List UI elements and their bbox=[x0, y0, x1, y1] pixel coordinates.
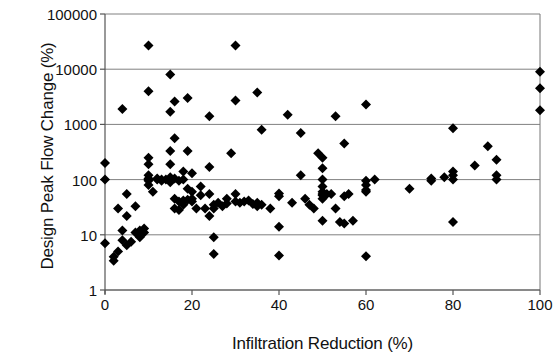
data-point bbox=[165, 107, 175, 117]
data-point bbox=[170, 133, 180, 143]
data-point bbox=[339, 139, 349, 149]
data-point bbox=[204, 162, 214, 172]
data-point bbox=[318, 216, 328, 226]
data-point bbox=[165, 70, 175, 80]
data-point bbox=[100, 238, 110, 248]
data-point bbox=[370, 175, 380, 185]
data-point bbox=[204, 111, 214, 121]
data-point bbox=[296, 128, 306, 138]
data-point bbox=[144, 153, 154, 163]
data-point bbox=[483, 141, 493, 151]
data-point bbox=[196, 181, 206, 191]
data-point bbox=[209, 249, 219, 259]
data-point bbox=[231, 96, 241, 106]
data-point bbox=[204, 189, 214, 199]
data-point bbox=[231, 40, 241, 50]
data-point bbox=[226, 148, 236, 158]
data-point bbox=[470, 161, 480, 171]
data-point bbox=[113, 203, 123, 213]
data-point bbox=[165, 146, 175, 156]
data-point bbox=[257, 125, 267, 135]
data-point bbox=[535, 105, 545, 115]
data-point bbox=[165, 159, 175, 169]
data-point bbox=[318, 163, 328, 173]
data-point bbox=[405, 184, 415, 194]
data-point bbox=[265, 203, 275, 213]
data-point bbox=[492, 155, 502, 165]
data-point bbox=[274, 251, 284, 261]
data-point bbox=[183, 93, 193, 103]
data-point bbox=[361, 251, 371, 261]
data-point bbox=[122, 189, 132, 199]
data-point bbox=[296, 170, 306, 180]
data-point bbox=[100, 175, 110, 185]
data-point bbox=[252, 87, 262, 97]
data-point bbox=[361, 99, 371, 109]
data-point bbox=[535, 83, 545, 93]
data-point bbox=[170, 96, 180, 106]
data-point bbox=[122, 211, 132, 221]
data-point bbox=[331, 203, 341, 213]
data-point bbox=[283, 110, 293, 120]
data-point bbox=[448, 217, 458, 227]
data-point bbox=[331, 111, 341, 121]
data-point bbox=[144, 40, 154, 50]
data-point bbox=[439, 172, 449, 182]
data-point bbox=[348, 216, 358, 226]
data-point bbox=[287, 198, 297, 208]
data-point bbox=[117, 225, 127, 235]
data-point bbox=[187, 168, 197, 178]
data-points bbox=[100, 40, 545, 265]
data-point bbox=[361, 187, 371, 197]
data-point bbox=[209, 232, 219, 242]
data-point bbox=[144, 86, 154, 96]
data-point bbox=[183, 146, 193, 156]
data-point bbox=[196, 190, 206, 200]
data-point bbox=[130, 201, 140, 211]
data-point bbox=[274, 222, 284, 232]
data-point bbox=[100, 158, 110, 168]
data-point bbox=[535, 67, 545, 77]
data-point bbox=[117, 104, 127, 114]
